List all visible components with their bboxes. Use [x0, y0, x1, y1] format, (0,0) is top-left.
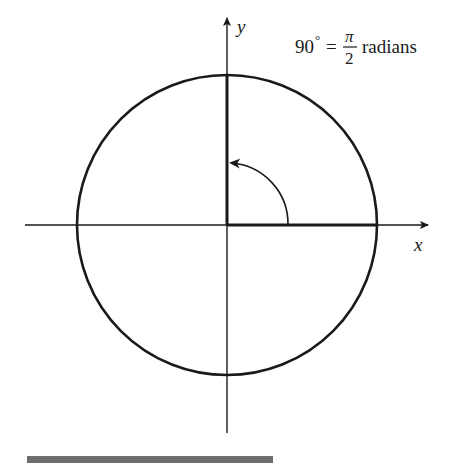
annotation-denominator: 2 — [345, 49, 354, 68]
annotation-unit: radians — [362, 36, 417, 57]
annotation-degree-symbol: ° — [315, 32, 320, 47]
bottom-bar — [27, 456, 273, 463]
annotation-numerator: π — [345, 27, 354, 46]
unit-circle-diagram: y x 90 ° = π 2 radians — [0, 0, 455, 463]
angle-annotation: 90 ° = π 2 radians — [295, 27, 417, 68]
y-axis-label: y — [235, 16, 246, 37]
x-axis-label: x — [413, 234, 423, 255]
angle-arc-arrow — [231, 163, 288, 225]
annotation-degrees: 90 — [295, 36, 314, 57]
annotation-equals: = — [326, 36, 337, 57]
